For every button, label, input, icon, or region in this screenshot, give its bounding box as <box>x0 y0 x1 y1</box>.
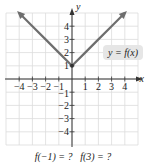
question-text: f(−1) = ? f(3) = ? <box>0 151 146 162</box>
vertex-point <box>70 64 74 68</box>
y-tick-label: −1 <box>58 88 69 99</box>
x-tick-label: −3 <box>27 81 38 92</box>
x-axis-label: x <box>139 73 145 84</box>
y-tick-label: 3 <box>64 34 69 45</box>
y-axis-arrow-icon <box>70 8 75 15</box>
y-axis-label: y <box>75 1 81 12</box>
x-tick-label: −4 <box>14 81 25 92</box>
question-part-2: f(3) = ? <box>80 151 111 162</box>
y-tick-label: −4 <box>58 126 69 137</box>
y-tick-label: 2 <box>64 47 69 58</box>
x-tick-label: 3 <box>109 81 114 92</box>
x-tick-label: 4 <box>122 81 127 92</box>
y-tick-label: −2 <box>58 100 69 111</box>
function-label: y = f(x) <box>103 45 143 60</box>
question-part-1: f(−1) = ? <box>35 151 73 162</box>
coordinate-graph: −4−3−2−112344321−1−2−3−4 x y y = f(x) <box>0 0 146 150</box>
x-tick-label: 1 <box>83 81 88 92</box>
y-tick-label: 4 <box>64 21 69 32</box>
x-tick-label: 2 <box>96 81 101 92</box>
y-axis <box>70 8 75 147</box>
function-label-text: y = f(x) <box>107 47 139 59</box>
y-tick-label: −3 <box>58 113 69 124</box>
x-tick-label: −2 <box>40 81 51 92</box>
